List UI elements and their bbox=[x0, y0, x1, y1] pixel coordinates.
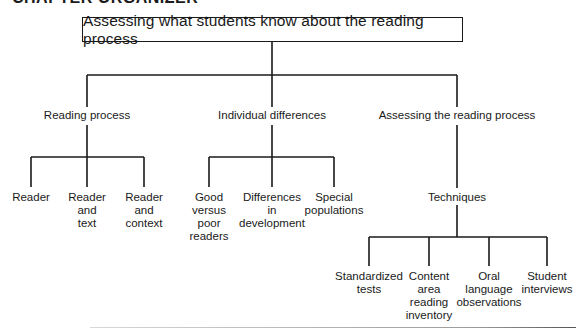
node-assessing-reading-process: Assessing the reading process bbox=[377, 109, 538, 122]
node-student-interviews: Student interviews bbox=[519, 270, 574, 296]
node-individual-differences: Individual differences bbox=[216, 109, 328, 122]
node-reader-and-text: Reader and text bbox=[66, 191, 108, 230]
node-reader: Reader bbox=[10, 191, 52, 204]
node-differences-in-development: Differences in development bbox=[237, 191, 307, 230]
node-content-area-reading-inventory: Content area reading inventory bbox=[404, 270, 455, 322]
root-node-label: Assessing what students know about the r… bbox=[83, 12, 462, 48]
node-standardized-tests: Standardized tests bbox=[333, 270, 405, 296]
node-special-populations: Special populations bbox=[303, 191, 366, 217]
node-oral-language-observations: Oral language observations bbox=[454, 270, 523, 309]
node-good-versus-poor-readers: Good versus poor readers bbox=[188, 191, 231, 243]
root-node: Assessing what students know about the r… bbox=[82, 17, 463, 42]
node-reader-and-context: Reader and context bbox=[123, 191, 165, 230]
node-techniques: Techniques bbox=[426, 191, 488, 204]
node-reading-process: Reading process bbox=[42, 109, 132, 122]
bottom-rule bbox=[90, 327, 576, 328]
